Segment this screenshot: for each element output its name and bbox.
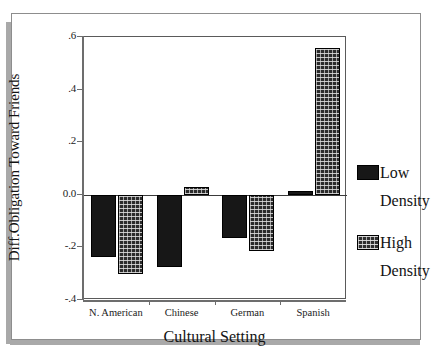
- y-axis-tick-label: .4: [32, 82, 76, 94]
- legend-row-low: Low: [357, 162, 437, 183]
- y-axis-tick-label: -.4: [32, 292, 76, 304]
- legend-label-low-line1: Low: [380, 164, 409, 182]
- y-axis-tick: [77, 194, 83, 195]
- chart-outer-frame: Diff.Obligation Toward Friends .6.4.20.0…: [11, 13, 421, 340]
- bar-high-density-german: [249, 195, 274, 252]
- bar-low-density-chinese: [157, 195, 182, 267]
- plot-area: [83, 36, 346, 299]
- y-axis-tick-label: .6: [32, 29, 76, 41]
- chart-legend: Low Density High Density: [357, 162, 437, 284]
- y-axis-line: [82, 36, 84, 300]
- x-axis-tick: [149, 300, 150, 305]
- legend-swatch-low-density-icon: [357, 165, 379, 180]
- y-axis-tick: [77, 89, 83, 90]
- legend-entry-high-density: High Density: [357, 232, 437, 280]
- bar-low-density-spanish: [288, 191, 313, 195]
- legend-entry-low-density: Low Density: [357, 162, 437, 210]
- legend-row-high: High: [357, 232, 437, 253]
- bar-high-density-n-american: [118, 195, 143, 274]
- legend-label-high-line1: High: [380, 234, 412, 252]
- bar-high-density-chinese: [184, 187, 209, 195]
- chart-figure: Diff.Obligation Toward Friends .6.4.20.0…: [0, 0, 437, 361]
- x-axis-tick-label: Spanish: [263, 307, 363, 318]
- y-axis-tick-label: 0.0: [32, 187, 76, 199]
- y-axis-tick: [77, 246, 83, 247]
- y-axis-title: Diff.Obligation Toward Friends: [6, 36, 23, 299]
- legend-swatch-high-density-icon: [357, 235, 379, 250]
- x-axis-title: Cultural Setting: [83, 328, 346, 346]
- y-axis-tick-label: .2: [32, 134, 76, 146]
- bar-low-density-n-american: [91, 195, 116, 257]
- legend-label-high-line2: Density: [380, 262, 437, 280]
- x-axis-tick: [280, 300, 281, 305]
- y-axis-title-wrapper: Diff.Obligation Toward Friends: [6, 36, 28, 299]
- y-axis-tick: [77, 141, 83, 142]
- bar-low-density-german: [222, 195, 247, 238]
- legend-label-low-line2: Density: [380, 192, 437, 210]
- y-axis-tick: [77, 36, 83, 37]
- bar-high-density-spanish: [315, 48, 340, 195]
- y-axis-tick-label: -.2: [32, 239, 76, 251]
- x-axis-tick: [215, 300, 216, 305]
